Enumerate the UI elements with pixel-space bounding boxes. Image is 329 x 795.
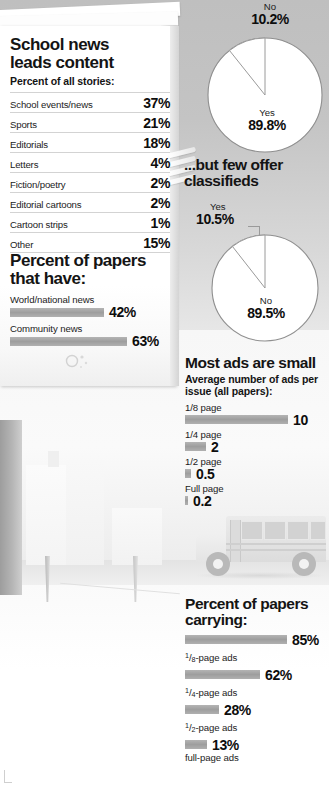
- papers-carrying-title: Percent of papers carrying:: [185, 596, 325, 629]
- bar-fill: [185, 740, 207, 749]
- papers-have-title-line2: that have:: [10, 269, 86, 288]
- bar-fill: [185, 705, 219, 714]
- row-label: Sports: [10, 112, 131, 132]
- school-news-title: School news leads content: [10, 36, 170, 72]
- bar-value: 85%: [292, 633, 319, 647]
- ads-size-subtitle-line2: issue (all papers):: [185, 385, 272, 397]
- bar-fill: [10, 308, 104, 317]
- bar-value: 2: [211, 440, 218, 454]
- ads-size-title: Most ads are small: [185, 355, 325, 371]
- pie1-no-value: 10.2%: [214, 12, 326, 27]
- row-value: 37%: [131, 92, 170, 112]
- infographic-root: School news leads content Percent of all…: [0, 0, 329, 795]
- school-news-subtitle: Percent of all stories:: [10, 76, 170, 88]
- bus-window: [287, 521, 309, 540]
- row-label: Other: [10, 232, 131, 252]
- bar-group-world-national: World/national news 42%: [10, 294, 175, 319]
- fraction-numerator: 1: [185, 686, 189, 695]
- pie2-yes-value: 10.5%: [196, 212, 260, 227]
- bar-fill: [185, 635, 287, 644]
- school-news-title-line2: leads content: [10, 53, 114, 72]
- doodle-illustration: [62, 350, 92, 372]
- papers-carrying-title-line2: carrying:: [185, 611, 247, 628]
- bus-window: [241, 521, 263, 540]
- table-row: Sports 21%: [10, 112, 170, 132]
- bus-stripe: [226, 543, 326, 545]
- pie-chart-classifieds: [210, 233, 320, 343]
- bar-value: 62%: [265, 668, 292, 682]
- bar-group-full-page-ads: 13% full-page ads: [185, 738, 325, 763]
- bar-fill: [185, 442, 206, 451]
- pie-chart-news-section: No 10.2%: [206, 2, 326, 27]
- pie2-no-annotation: No 89.5%: [230, 296, 302, 321]
- bar-group-community: Community news 63%: [10, 323, 175, 348]
- school-news-title-line1: School news: [10, 35, 109, 54]
- school-bus-illustration: [196, 516, 326, 584]
- bar-group-quarter-page: 1/4 page 2: [185, 429, 325, 454]
- bar-fill: [10, 337, 127, 346]
- bar-label: 1/8-page ads: [185, 651, 237, 664]
- bar-value: 10: [293, 413, 308, 427]
- fraction-tail: -page ads: [195, 722, 237, 733]
- ads-size-subtitle-line1: Average number of ads per: [185, 373, 318, 385]
- bar-value: 0.2: [193, 494, 211, 508]
- row-value: 15%: [131, 232, 170, 252]
- table-row: School events/news 37%: [10, 92, 170, 112]
- table-row: Editorial cartoons 2%: [10, 192, 170, 212]
- bus-wheel: [206, 552, 230, 576]
- row-value: 4%: [131, 152, 170, 172]
- pie1-no-annotation: No 10.2%: [214, 2, 326, 27]
- row-label: Letters: [10, 152, 131, 172]
- bar-fill: [185, 496, 188, 505]
- corner-crop-mark: [4, 770, 12, 783]
- classifieds-section: ...but few offer classifieds: [184, 157, 324, 190]
- table-row: Letters 4%: [10, 152, 170, 172]
- bar-value: 13%: [212, 738, 239, 752]
- fraction-tail: -page ads: [195, 652, 237, 663]
- ads-size-section: Most ads are small Average number of ads…: [185, 355, 325, 509]
- bar-group-eighth-page-ads: 85% 1/8-page ads: [185, 633, 325, 665]
- fraction-numerator: 1: [185, 651, 189, 660]
- bar-group-half-page-ads: 28% 1/2-page ads: [185, 703, 325, 735]
- row-value: 21%: [131, 112, 170, 132]
- bar-label: full-page ads: [185, 752, 325, 763]
- row-label: School events/news: [10, 92, 131, 112]
- utility-pole-illustration: [0, 420, 22, 595]
- pie1-yes-annotation: Yes 89.8%: [230, 108, 304, 133]
- pie-chart-news: [206, 36, 324, 154]
- school-building-illustration: [66, 460, 104, 565]
- bus-window: [310, 521, 326, 540]
- bar-fill: [185, 469, 191, 478]
- pie2-leader-line: [259, 226, 260, 235]
- bar-value: 28%: [224, 703, 251, 717]
- row-value: 1%: [131, 212, 170, 232]
- pie2-no-value: 89.5%: [230, 306, 302, 321]
- row-label: Editorials: [10, 132, 131, 152]
- bar-label: World/national news: [10, 294, 175, 305]
- bar-group-half-page: 1/2 page 0.5: [185, 456, 325, 481]
- bar-group-full-page: Full page 0.2: [185, 483, 325, 508]
- bar-value: 42%: [109, 305, 136, 319]
- bar-value: 0.5: [196, 467, 214, 481]
- classifieds-title: ...but few offer classifieds: [184, 157, 324, 190]
- papers-carrying-title-line1: Percent of papers: [185, 595, 308, 612]
- classifieds-title-line1: ...but few offer: [184, 156, 283, 173]
- pie1-yes-value: 89.8%: [230, 118, 304, 133]
- fraction-tail: -page ads: [195, 687, 237, 698]
- bar-group-eighth-page: 1/8 page 10: [185, 402, 325, 427]
- school-building-illustration: [26, 465, 70, 565]
- papers-have-title-line1: Percent of papers: [10, 251, 146, 270]
- table-row: Cartoon strips 1%: [10, 212, 170, 232]
- bar-group-quarter-page-ads: 62% 1/4-page ads: [185, 668, 325, 700]
- bar-fill: [185, 415, 288, 424]
- fraction-numerator: 1: [185, 721, 189, 730]
- table-row: Editorials 18%: [10, 132, 170, 152]
- row-label: Editorial cartoons: [10, 192, 131, 212]
- bus-stripe: [226, 549, 326, 551]
- school-news-section: School news leads content Percent of all…: [10, 36, 170, 253]
- bar-label: 1/2-page ads: [185, 721, 237, 734]
- bus-window: [264, 521, 286, 540]
- bar-label: 1/4 page: [185, 429, 325, 440]
- row-value: 2%: [131, 192, 170, 212]
- chimney-illustration: [48, 451, 59, 467]
